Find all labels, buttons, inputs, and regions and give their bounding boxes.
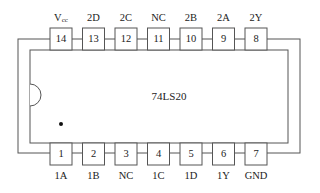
- vcc-main: V: [54, 12, 62, 23]
- pin-label: 2B: [176, 12, 206, 24]
- pin-number: 11: [148, 28, 170, 50]
- pin-number: 8: [245, 28, 267, 50]
- pin-label-vcc: Vcc: [46, 12, 76, 26]
- pin-number: 6: [213, 143, 235, 165]
- pin-label: 1Y: [209, 170, 239, 182]
- pin-number: 1: [50, 143, 72, 165]
- pin-label: 2Y: [241, 12, 271, 24]
- pin-label: 2D: [79, 12, 109, 24]
- pin-number: 9: [213, 28, 235, 50]
- pin-label: 1A: [46, 170, 76, 182]
- pin-number: 2: [83, 143, 105, 165]
- pin-number: 13: [83, 28, 105, 50]
- pin-label: 1B: [79, 170, 109, 182]
- pin-number: 3: [115, 143, 137, 165]
- pin1-dot-icon: [59, 122, 63, 126]
- pin-number: 5: [180, 143, 202, 165]
- pin-number: 4: [148, 143, 170, 165]
- pin-label: 1D: [176, 170, 206, 182]
- chip-name: 74LS20: [139, 90, 199, 102]
- pin-label: 1C: [144, 170, 174, 182]
- pin-label: 2C: [111, 12, 141, 24]
- pin-number: 12: [115, 28, 137, 50]
- pin-number: 10: [180, 28, 202, 50]
- pin-label: GND: [241, 170, 271, 182]
- pin-number: 14: [50, 28, 72, 50]
- vcc-sub: cc: [62, 16, 68, 24]
- pin-label: NC: [144, 12, 174, 24]
- pin-label: 2A: [209, 12, 239, 24]
- pin-label: NC: [111, 170, 141, 182]
- pin-number: 7: [245, 143, 267, 165]
